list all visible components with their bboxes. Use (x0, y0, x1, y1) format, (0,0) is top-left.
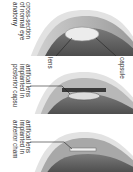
panel-anterior-implant: artifical lens implanted in anterior cha… (0, 118, 133, 172)
panel-normal-eye: cross-section of normal eye anatomy (0, 0, 133, 56)
caption-normal-eye: cross-section of normal eye anatomy (12, 2, 31, 40)
caption-posterior-implant: artifical lens implanted in posterior ca… (12, 64, 31, 107)
panel-posterior-implant: artifical lens implanted in posterior ca… (0, 62, 133, 114)
caption-anterior-implant: artifical lens implanted in anterior cha… (12, 120, 31, 159)
